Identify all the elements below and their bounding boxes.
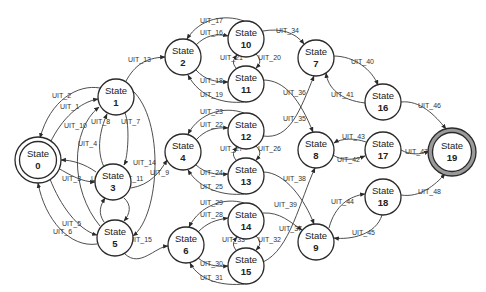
edge-label: UIT_43 [342, 133, 365, 141]
state-number: 9 [313, 242, 318, 253]
state-label: State [305, 138, 327, 149]
state-node-15: State 15 [228, 248, 264, 284]
state-node-19: State 19 [428, 128, 476, 176]
edge-label: UIT_22 [200, 121, 223, 129]
edge-label: UIT_37 [279, 225, 302, 233]
edge-label: UIT_46 [418, 102, 441, 110]
edge-label: UIT_16 [200, 29, 223, 37]
edge-label: UIT_13 [128, 56, 151, 64]
edge-label: UIT_29 [200, 199, 223, 207]
state-label: State [235, 119, 257, 130]
state-node-18: State 18 [365, 179, 401, 215]
edge-label: UIT_38 [283, 175, 306, 183]
edge-uit-12 [100, 198, 105, 222]
edge-label: UIT_8 [91, 118, 110, 126]
state-label: State [305, 230, 327, 241]
state-label: State [172, 140, 194, 151]
edge-uit-6 [38, 183, 97, 244]
edge-label: UIT_24 [200, 169, 223, 177]
edge-uit-35 [263, 76, 314, 136]
state-number: 0 [35, 160, 40, 171]
edge-label: UIT_34 [276, 27, 299, 35]
state-number: 17 [378, 150, 389, 161]
state-number: 10 [241, 39, 252, 50]
edge-label: UIT_35 [283, 115, 306, 123]
state-transition-diagram: UIT_2 UIT_1 UIT_3 UIT_4 UIT_5 UIT_6 UIT_… [0, 0, 486, 292]
edge-label: UIT_31 [200, 274, 223, 282]
state-label: State [372, 90, 394, 101]
state-number: 12 [241, 131, 252, 142]
edge-label: UIT_26 [258, 145, 281, 153]
edge-uit-16 [196, 35, 228, 45]
edge-uit-28 [198, 218, 228, 232]
state-label: State [105, 85, 127, 96]
state-label: State [305, 46, 327, 57]
state-number: 1 [113, 97, 119, 108]
state-number: 15 [241, 266, 252, 277]
state-number: 14 [241, 221, 252, 232]
state-label: State [172, 45, 194, 56]
state-label: State [102, 170, 124, 181]
state-label: State [235, 209, 257, 220]
edge-label: UIT_17 [200, 17, 223, 25]
state-label: State [372, 185, 394, 196]
state-node-17: State 17 [365, 132, 401, 168]
state-number: 7 [313, 58, 318, 69]
state-label: State [235, 27, 257, 38]
edge-label: UIT_28 [200, 211, 223, 219]
state-node-16: State 16 [365, 84, 401, 120]
state-label: State [235, 164, 257, 175]
edge-label: UIT_19 [200, 91, 223, 99]
state-label: State [27, 148, 49, 159]
state-node-7: State 7 [298, 40, 334, 76]
edge-label: UIT_20 [258, 54, 281, 62]
state-label: State [235, 254, 257, 265]
state-node-14: State 14 [228, 203, 264, 239]
state-number: 18 [378, 197, 389, 208]
state-node-2: State 2 [165, 39, 201, 75]
state-label: State [372, 138, 394, 149]
state-node-13: State 13 [228, 158, 264, 194]
edge-label: UIT_25 [200, 183, 223, 191]
edge-label: UIT_44 [331, 198, 354, 206]
state-number: 2 [180, 57, 185, 68]
edge-uit-36 [263, 80, 313, 132]
edge-label: UIT_42 [337, 156, 360, 164]
edge-label: UIT_9 [150, 169, 169, 177]
edge-label: UIT_40 [351, 58, 374, 66]
state-node-3: State 3 [95, 164, 131, 200]
state-number: 8 [313, 150, 318, 161]
state-label: State [235, 72, 257, 83]
edge-uit-15 [125, 246, 168, 259]
state-number: 16 [378, 102, 389, 113]
state-label: State [441, 140, 463, 151]
state-number: 5 [112, 238, 118, 249]
state-node-6: State 6 [168, 227, 204, 263]
state-number: 4 [180, 152, 186, 163]
edge-label: UIT_36 [283, 89, 306, 97]
edge-label: UIT_32 [258, 236, 281, 244]
edge-label: UIT_2 [52, 92, 71, 100]
edge-uit-41 [326, 73, 365, 103]
state-node-0: State 0 [15, 137, 61, 183]
state-label: State [175, 233, 197, 244]
edge-label: UIT_6 [53, 228, 72, 236]
edge-label: UIT_30 [200, 260, 223, 268]
edge-label: UIT_39 [274, 201, 297, 209]
edge-label: UIT_41 [331, 91, 354, 99]
state-label: State [104, 226, 126, 237]
edge-label: UIT_7 [121, 118, 140, 126]
edge-label: UIT_3 [62, 175, 81, 183]
edge-label: UIT_14 [133, 159, 156, 167]
state-node-11: State 11 [228, 66, 264, 102]
edge-label: UIT_23 [200, 108, 223, 116]
edge-label: UIT_45 [352, 229, 375, 237]
state-node-1: State 1 [98, 79, 134, 115]
edge-uit-22 [196, 128, 228, 140]
state-number: 6 [183, 245, 188, 256]
state-node-8: State 8 [298, 132, 334, 168]
state-node-10: State 10 [228, 21, 264, 57]
edge-label: UIT_10 [64, 122, 87, 130]
state-node-12: State 12 [228, 113, 264, 149]
edge-label: UIT_48 [418, 188, 441, 196]
